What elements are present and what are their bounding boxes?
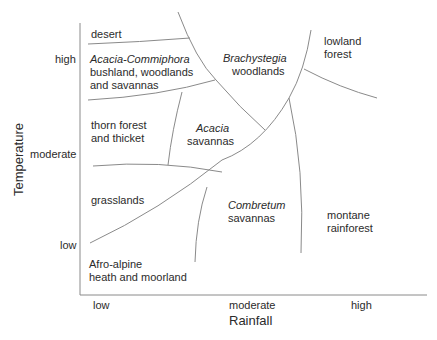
zone-desert: desert <box>91 28 122 41</box>
zone-acacia-commiphora-italic: Acacia-Commiphora <box>90 53 193 66</box>
grassland-boundary <box>93 164 222 172</box>
zone-montane-rainforest: montane rainforest <box>327 209 373 235</box>
zone-grasslands-line1: grasslands <box>91 194 144 207</box>
zone-acacia-savannas: Acacia savannas <box>187 122 234 148</box>
zone-combretum-line1: savannas <box>228 212 285 225</box>
y-tick-low: low <box>60 239 77 251</box>
x-tick-low: low <box>93 299 110 311</box>
zone-acacia-savannas-italic: Acacia <box>187 122 234 135</box>
zone-thorn-forest-line2: and thicket <box>91 132 147 145</box>
lowland-forest-boundary <box>304 69 377 98</box>
zone-lowland-forest: lowland forest <box>324 35 361 61</box>
x-axis-title: Rainfall <box>229 313 272 328</box>
diagram-lines <box>0 0 437 340</box>
x-tick-high: high <box>351 299 372 311</box>
zone-acacia-savannas-line1: savannas <box>187 135 234 148</box>
zone-afro-alpine-line2: heath and moorland <box>89 271 187 284</box>
acacia-savanna-boundary <box>168 92 182 165</box>
zone-montane-rainforest-line1: montane <box>327 209 373 222</box>
zone-acacia-commiphora-line1: bushland, woodlands <box>90 66 193 79</box>
zone-grasslands: grasslands <box>91 194 144 207</box>
y-tick-moderate: moderate <box>30 148 76 160</box>
zone-montane-rainforest-line2: rainforest <box>327 222 373 235</box>
montane-boundary <box>289 98 302 253</box>
zone-afro-alpine: Afro-alpine heath and moorland <box>89 258 187 284</box>
zone-afro-alpine-line1: Afro-alpine <box>89 258 187 271</box>
zone-thorn-forest: thorn forest and thicket <box>91 119 147 145</box>
combretum-left-boundary <box>195 187 207 262</box>
x-tick-moderate: moderate <box>229 299 275 311</box>
zone-lowland-forest-line1: lowland <box>324 35 361 48</box>
y-tick-high: high <box>55 53 76 65</box>
zone-desert-line: desert <box>91 28 122 41</box>
zone-lowland-forest-line2: forest <box>324 48 361 61</box>
zone-combretum-italic: Combretum <box>228 199 285 212</box>
zone-acacia-commiphora: Acacia-Commiphora bushland, woodlands an… <box>90 53 193 92</box>
zone-brachystegia-line1: woodlands <box>223 65 287 78</box>
zone-thorn-forest-line1: thorn forest <box>91 119 147 132</box>
zone-brachystegia-italic: Brachystegia <box>223 52 287 65</box>
zone-combretum: Combretum savannas <box>228 199 285 225</box>
y-axis-title: Temperature <box>11 123 26 196</box>
zone-acacia-commiphora-line2: and savannas <box>90 79 193 92</box>
zone-brachystegia: Brachystegia woodlands <box>223 52 287 78</box>
